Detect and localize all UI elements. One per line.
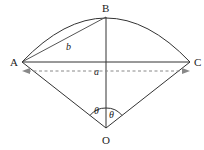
label-point-o: O (102, 134, 110, 146)
label-point-a: A (10, 56, 18, 68)
label-chord-b: b (66, 41, 71, 52)
chord-ab (22, 17, 106, 62)
sector-diagram: B A C O b a θ θ (0, 0, 204, 150)
label-point-c: C (194, 56, 201, 68)
label-point-b: B (102, 2, 109, 14)
arrowhead-right-icon (182, 68, 190, 74)
radius-co (106, 62, 190, 128)
label-angle-theta-left: θ (94, 105, 99, 116)
label-dimension-a: a (94, 66, 99, 77)
label-angle-theta-right: θ (109, 109, 114, 120)
arrowhead-left-icon (22, 68, 30, 74)
